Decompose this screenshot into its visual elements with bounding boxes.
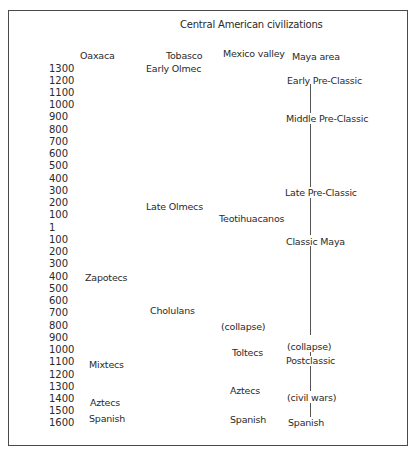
column-header-mexico-valley: Mexico valley: [223, 48, 285, 59]
entry-maya-classic-maya: Classic Maya: [286, 236, 345, 247]
entry-maya-spanish: Spanish: [288, 417, 324, 428]
year-label: 1000: [49, 99, 74, 110]
maya-timeline-segment: [310, 84, 311, 113]
year-label: 1: [49, 222, 55, 233]
entry-mexico-toltecs: Toltecs: [232, 347, 263, 358]
year-label: 400: [49, 271, 68, 282]
year-label: 700: [49, 136, 68, 147]
year-label: 1100: [49, 356, 74, 367]
year-label: 600: [49, 295, 68, 306]
year-label: 600: [49, 148, 68, 159]
year-label: 1200: [49, 75, 74, 86]
year-label: 200: [49, 246, 68, 257]
column-header-oaxaca: Oaxaca: [80, 50, 115, 61]
entry-tobasco-cholulans: Cholulans: [150, 305, 195, 316]
year-label: 800: [49, 124, 68, 135]
year-label: 900: [49, 111, 68, 122]
entry-maya-late-pre-classic: Late Pre-Classic: [285, 187, 357, 198]
year-label: 400: [49, 173, 68, 184]
year-label: 1300: [49, 63, 74, 74]
year-label: 700: [49, 307, 68, 318]
entry-maya-early-pre-classic: Early Pre-Classic: [287, 75, 362, 86]
maya-timeline-segment: [310, 366, 311, 391]
entry-mexico-aztecs: Aztecs: [230, 385, 260, 396]
year-label: 300: [49, 258, 68, 269]
entry-oaxaca-aztecs: Aztecs: [90, 397, 120, 408]
column-header-maya-area: Maya area: [292, 51, 340, 62]
entry-mexico-spanish: Spanish: [230, 414, 266, 425]
column-header-tobasco: Tobasco: [166, 50, 202, 61]
entry-maya-postclassic: Postclassic: [286, 355, 335, 366]
year-label: 300: [49, 185, 68, 196]
entry-mexico-teotihuacanos: Teotihuacanos: [219, 213, 284, 224]
entry-maya-middle-pre-classic: Middle Pre-Classic: [286, 113, 368, 124]
entry-maya-civil-wars: (civil wars): [287, 392, 336, 403]
year-label: 500: [49, 283, 68, 294]
year-label: 1000: [49, 344, 74, 355]
entry-maya-collapse: (collapse): [287, 341, 331, 352]
entry-oaxaca-mixtecs: Mixtecs: [89, 359, 124, 370]
diagram-title: Central American civilizations: [180, 19, 323, 30]
maya-timeline-segment: [310, 198, 311, 235]
year-label: 800: [49, 320, 68, 331]
year-label: 100: [49, 209, 68, 220]
year-label: 1500: [49, 405, 74, 416]
year-label: 900: [49, 332, 68, 343]
year-label: 1400: [49, 393, 74, 404]
year-label: 200: [49, 197, 68, 208]
entry-mexico-collapse: (collapse): [221, 321, 265, 332]
entry-tobasco-early-olmec: Early Olmec: [146, 63, 201, 74]
entry-tobasco-late-olmecs: Late Olmecs: [146, 201, 203, 212]
maya-timeline-segment: [310, 403, 311, 417]
year-label: 1300: [49, 381, 74, 392]
entry-oaxaca-spanish: Spanish: [89, 413, 125, 424]
year-label: 500: [49, 160, 68, 171]
maya-timeline-segment: [310, 246, 311, 335]
year-label: 1100: [49, 87, 74, 98]
entry-oaxaca-zapotecs: Zapotecs: [85, 272, 127, 283]
year-label: 1600: [49, 417, 74, 428]
year-label: 1200: [49, 369, 74, 380]
year-label: 100: [49, 234, 68, 245]
maya-timeline-segment: [310, 124, 311, 187]
